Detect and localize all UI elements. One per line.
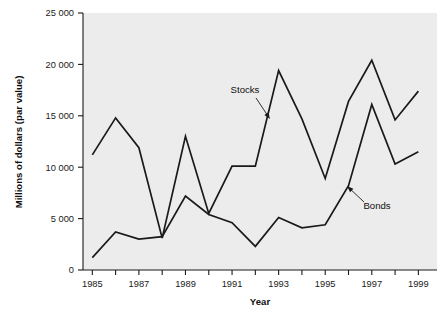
y-axis-title: Millions of dollars (par value) [13,76,24,209]
y-tick-label: 0 [69,265,74,275]
y-tick-label: 20 000 [46,60,74,70]
x-tick-label: 1995 [315,279,336,289]
chart-figure: 05 00010 00015 00020 00025 000 198519871… [0,0,447,314]
x-tick-label: 1999 [408,279,429,289]
x-axis-title: Year [250,296,271,307]
x-tick-label: 1991 [222,279,243,289]
x-tick-label: 1985 [82,279,103,289]
y-tick-label: 10 000 [46,163,74,173]
plot-background [83,13,437,270]
annotation-label-stocks: Stocks [231,84,260,95]
x-tick-label: 1997 [361,279,382,289]
annotation-label-bonds: Bonds [363,200,390,211]
x-tick-label: 1989 [175,279,196,289]
x-tick-label: 1993 [268,279,289,289]
y-tick-label: 25 000 [46,8,74,18]
y-tick-label: 5 000 [51,214,74,224]
x-axis-ticks: 19851987198919911993199519971999 [82,270,429,289]
y-axis-ticks: 05 00010 00015 00020 00025 000 [46,8,83,275]
chart-svg: 05 00010 00015 00020 00025 000 198519871… [0,0,447,314]
y-tick-label: 15 000 [46,111,74,121]
x-tick-label: 1987 [129,279,150,289]
